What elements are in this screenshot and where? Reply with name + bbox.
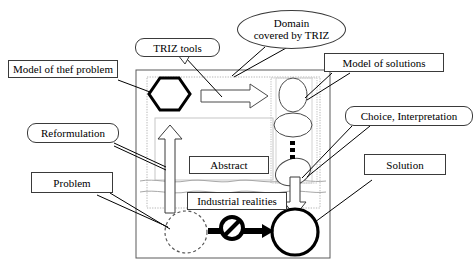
callout-reformulation-label: Reformulation <box>41 127 105 139</box>
leader-problem-2 <box>110 193 170 229</box>
callout-triz-tools-label: TRIZ tools <box>153 42 202 54</box>
callout-domain-line2: covered by TRIZ <box>254 30 330 42</box>
leader-choice-2 <box>307 126 370 177</box>
label-abstract: Abstract <box>189 156 269 174</box>
leader-reformulation-2 <box>114 146 166 170</box>
reformulation-arrow <box>158 125 182 213</box>
leader-reformulation-1 <box>114 143 166 167</box>
callout-problem[interactable]: Problem <box>31 172 113 193</box>
label-abstract-text: Abstract <box>210 159 247 171</box>
callout-model-of-problem-label: Model of thef problem <box>13 63 113 75</box>
callout-solution-label: Solution <box>386 159 423 171</box>
callout-model-of-solutions[interactable]: Model of solutions <box>324 53 444 72</box>
callout-reformulation[interactable]: Reformulation <box>27 123 119 143</box>
solution-ellipse-1 <box>279 78 307 112</box>
triz-tools-arrow <box>201 84 268 108</box>
callout-choice-interpretation[interactable]: Choice, Interpretation <box>345 106 473 126</box>
leader-choice-1 <box>302 126 352 178</box>
problem-circle <box>165 211 207 253</box>
callout-solution[interactable]: Solution <box>364 154 446 175</box>
callout-triz-tools[interactable]: TRIZ tools <box>135 38 220 57</box>
leader-model-of-problem <box>118 80 150 92</box>
solution-circle <box>272 209 318 255</box>
label-industrial-realities: Industrial realities <box>187 192 287 210</box>
callout-model-of-solutions-label: Model of solutions <box>342 57 425 69</box>
callout-domain-covered[interactable]: Domain covered by TRIZ <box>237 10 346 49</box>
ellipsis-dot-2 <box>290 148 295 152</box>
callout-model-of-problem[interactable]: Model of thef problem <box>8 60 118 78</box>
diagram-canvas: Model of thef problem TRIZ tools Domain … <box>0 0 475 275</box>
leader-domain-2 <box>234 47 288 77</box>
model-of-problem-hexagon <box>149 78 190 110</box>
callout-choice-interpretation-label: Choice, Interpretation <box>361 110 458 122</box>
solution-ellipse-2 <box>274 113 312 137</box>
leader-solution <box>315 180 372 222</box>
leader-domain-1 <box>232 47 265 76</box>
label-industrial-realities-text: Industrial realities <box>197 195 277 207</box>
callout-problem-label: Problem <box>53 177 90 189</box>
callout-domain-line1: Domain <box>274 18 309 30</box>
leader-problem-1 <box>97 195 168 227</box>
ellipsis-dot-1 <box>290 141 295 145</box>
ellipsis-dot-3 <box>290 155 295 159</box>
